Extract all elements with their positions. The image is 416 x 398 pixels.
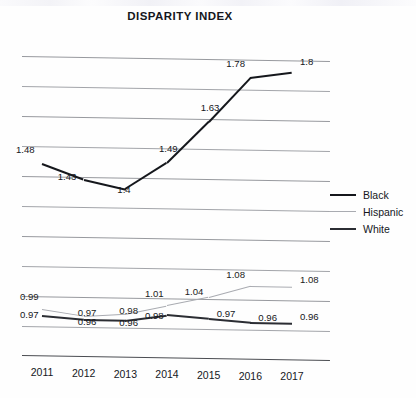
data-label-white-2015: 0.97 [217,308,236,319]
gridline [22,56,330,62]
data-label-white-2012: 0.96 [78,316,97,327]
legend-swatch-hispanic-icon [330,211,356,212]
data-label-white-2016: 0.96 [258,312,277,323]
gridline [22,206,330,212]
series-white-segment [167,314,209,320]
data-label-hispanic-2016: 1.08 [226,269,245,280]
x-axis-tick-2011: 2011 [22,366,62,378]
series-hispanic-segment [209,286,251,298]
data-label-hispanic-2011: 0.99 [20,291,39,302]
data-label-black-2013: 1.4 [117,184,130,195]
series-black-segment [125,162,168,190]
series-black-segment [250,71,292,78]
legend-label: Black [363,189,389,201]
legend-item-hispanic[interactable]: Hispanic [330,203,403,220]
series-hispanic-segment [250,286,292,288]
legend-swatch-white-icon [330,228,356,230]
x-axis-line [22,355,330,361]
data-label-hispanic-2014: 1.01 [145,288,164,299]
gridline [22,116,330,122]
series-black-segment [208,77,251,123]
gridline [22,296,330,302]
data-label-black-2017: 1.8 [300,56,313,67]
x-axis-tick-2014: 2014 [147,368,187,380]
gridline [22,326,330,332]
x-axis-tick-2016: 2016 [230,370,270,382]
x-axis-tick-2012: 2012 [64,367,104,379]
disparity-index-chart: DISPARITY INDEX 201120122013201420152016… [0,0,416,398]
data-label-white-2013: 0.96 [119,317,138,328]
data-label-hispanic-2015: 1.04 [185,286,204,297]
gridline [22,86,330,92]
gridline [22,266,330,272]
data-label-white-2017: 0.96 [300,311,319,322]
data-label-black-2016: 1.78 [226,58,245,69]
data-label-hispanic-2013: 0.98 [119,305,138,316]
x-axis-tick-2015: 2015 [189,369,229,381]
gridline [22,236,330,242]
data-label-black-2011: 1.48 [16,144,35,155]
legend-item-black[interactable]: Black [330,186,403,203]
x-axis-tick-2017: 2017 [272,370,312,382]
data-label-black-2012: 1.43 [58,171,77,182]
legend-label: White [363,223,390,235]
data-label-black-2014: 1.49 [159,143,178,154]
data-label-white-2011: 0.97 [20,309,39,320]
data-label-white-2014: 0.98 [145,310,164,321]
data-label-hispanic-2017: 1.08 [300,274,319,285]
data-label-black-2015: 1.63 [201,102,220,113]
legend-swatch-black-icon [330,194,356,196]
legend-label: Hispanic [363,206,403,218]
x-axis-tick-2013: 2013 [105,368,145,380]
legend-item-white[interactable]: White [330,220,403,237]
chart-legend: BlackHispanicWhite [330,186,403,237]
